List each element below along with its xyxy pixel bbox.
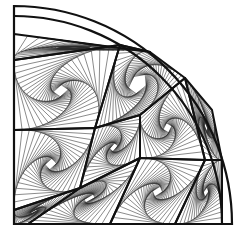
nested-polygon [128, 74, 147, 94]
nested-polygon [116, 159, 198, 223]
nested-polygon [36, 72, 85, 109]
nested-polygon [127, 164, 187, 219]
nested-polygon [92, 127, 133, 165]
pursuit-curve-artwork [0, 0, 244, 239]
